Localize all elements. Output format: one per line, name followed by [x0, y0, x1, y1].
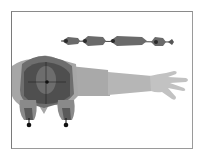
left-foot-joint: [27, 123, 32, 128]
left-leg: [20, 100, 37, 127]
rig-scene: [0, 0, 205, 157]
bone-chain: [61, 36, 174, 46]
right-foot-joint: [64, 123, 69, 128]
bone-segment-3: [110, 36, 147, 46]
right-leg: [58, 100, 75, 127]
bone-segment-4: [151, 37, 166, 46]
hand: [150, 71, 188, 100]
bone-tip: [168, 39, 174, 45]
root-joint: [45, 80, 49, 84]
arm: [60, 65, 188, 100]
bone-segment-1: [62, 37, 80, 45]
bone-segment-2: [82, 36, 106, 46]
